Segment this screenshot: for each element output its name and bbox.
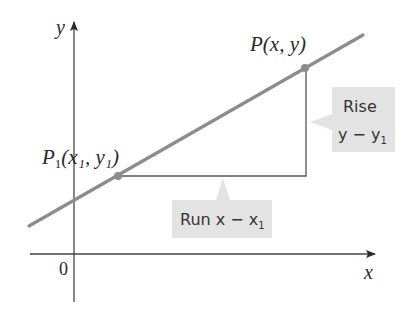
diagram-canvas: y x 0 P(x, y) P1(x₁, y₁) Rise y − y1 [0, 0, 413, 310]
run-callout-bubble [172, 178, 272, 238]
point-p1-name: P [41, 145, 55, 169]
rise-formula-main: y − y [338, 125, 381, 144]
point-p1 [114, 172, 122, 180]
y-axis-label: y [54, 16, 65, 39]
rise-callout: Rise y − y1 [310, 87, 395, 152]
run-callout: Run x − x1 [172, 178, 272, 238]
sloped-line [29, 35, 363, 226]
origin-label: 0 [59, 259, 68, 279]
run-formula-subscript: 1 [258, 220, 264, 231]
run-formula: Run x − x1 [180, 210, 265, 231]
slope-diagram: y x 0 P(x, y) P1(x₁, y₁) Rise y − y1 [0, 0, 413, 310]
point-p-args: (x, y) [263, 32, 306, 56]
x-axis-label: x [363, 261, 373, 283]
point-p [301, 64, 309, 72]
rise-formula-subscript: 1 [381, 135, 387, 146]
point-p1-args: (x₁, y₁) [61, 145, 119, 169]
point-p-name: P [249, 32, 263, 56]
point-p-label: P(x, y) [249, 32, 306, 56]
run-formula-main: Run x − x [180, 210, 258, 229]
rise-formula: y − y1 [338, 125, 387, 146]
rise-label: Rise [343, 97, 377, 116]
point-p1-label: P1(x₁, y₁) [41, 145, 119, 171]
